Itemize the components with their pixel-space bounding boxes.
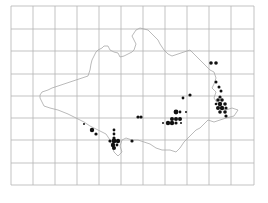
- grid: [11, 6, 254, 185]
- occurrence-dot: [224, 106, 227, 109]
- occurrence-dot: [112, 146, 116, 150]
- occurrence-dot: [224, 114, 227, 117]
- occurrence-dot: [220, 90, 223, 93]
- occurrence-dot: [178, 117, 182, 121]
- occurrence-dot: [215, 103, 218, 106]
- occurrence-dot: [214, 61, 218, 65]
- occurrence-dot: [216, 106, 220, 110]
- occurrence-dot: [112, 139, 117, 144]
- occurrence-dot: [218, 110, 222, 114]
- occurrence-dot: [94, 132, 97, 135]
- occurrence-dot: [170, 121, 174, 125]
- occurrence-dot: [170, 117, 174, 121]
- occurrence-dot: [180, 122, 182, 124]
- occurrence-dot: [218, 95, 221, 98]
- occurrence-dot: [113, 129, 116, 132]
- occurrence-dot: [174, 117, 178, 121]
- occurrence-dot: [130, 139, 133, 142]
- occurrence-dot: [220, 106, 224, 110]
- occurrence-dot: [209, 61, 213, 65]
- occurrence-dot: [179, 111, 182, 114]
- occurrence-dot: [139, 115, 142, 118]
- occurrence-dot: [218, 102, 222, 106]
- occurrence-dot: [223, 110, 227, 114]
- occurrence-dots: [83, 61, 228, 150]
- occurrence-dot: [220, 98, 224, 102]
- occurrence-dot: [116, 144, 119, 147]
- distribution-map: [0, 0, 268, 203]
- occurrence-dot: [166, 121, 170, 125]
- region-outline: [40, 28, 238, 156]
- occurrence-dot: [174, 110, 179, 115]
- occurrence-dot: [182, 97, 185, 100]
- occurrence-dot: [116, 139, 120, 143]
- occurrence-dot: [90, 128, 94, 132]
- occurrence-dot: [108, 139, 111, 142]
- occurrence-dot: [83, 123, 85, 125]
- occurrence-dot: [223, 102, 227, 106]
- occurrence-dot: [174, 121, 177, 124]
- occurrence-dot: [216, 98, 220, 102]
- occurrence-dot: [136, 115, 139, 118]
- occurrence-dot: [185, 111, 187, 113]
- occurrence-dot: [188, 93, 191, 96]
- occurrence-dot: [113, 133, 116, 136]
- occurrence-dot: [215, 81, 218, 84]
- occurrence-dot: [162, 122, 164, 124]
- occurrence-dot: [218, 86, 221, 89]
